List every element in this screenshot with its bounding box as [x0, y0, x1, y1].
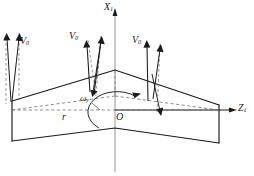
right-v0-vector-shaft [147, 45, 148, 101]
velocity-vector-group-right [143, 40, 163, 116]
mid-v0-vector-arrowhead [83, 40, 90, 48]
radius-label: r [62, 112, 66, 122]
right-v0-vector-arrowhead [143, 40, 150, 48]
hidden-edge-right [115, 96, 219, 110]
x1-axis-label: X1 [104, 2, 113, 13]
velocity-label-left: V0 [20, 36, 29, 47]
left-v0-vector-arrowhead [3, 33, 10, 41]
wing-trailing-edge-bottom [12, 128, 219, 143]
x1-axis-arrowhead [113, 8, 118, 16]
left-v0-vector-shaft [7, 38, 11, 102]
velocity-label-right: V0 [132, 35, 141, 46]
hidden-edge-left [12, 96, 115, 110]
wing-body [12, 70, 219, 143]
velocity-vector-group-mid [83, 36, 105, 97]
figure-canvas: X1 Z1 O r ωy V0 V0 V0 [0, 0, 254, 176]
z1-axis-label: Z1 [238, 103, 247, 114]
hidden-construction-lines [12, 70, 219, 110]
wing-diagram-svg [0, 0, 254, 176]
velocity-label-mid: V0 [69, 31, 78, 42]
angular-velocity-label: ωy [80, 94, 89, 104]
omega-leader-line [92, 103, 100, 110]
wing-leading-edge-top [12, 70, 219, 105]
left-resultant-vector-shaft [12, 38, 19, 101]
z1-axis-arrowhead [229, 107, 237, 112]
mid-resultant-vector-arrowhead [98, 36, 105, 44]
rotation-arc-arrowhead [132, 92, 141, 98]
origin-label: O [116, 112, 123, 122]
mid-induced-vector-shaft [93, 41, 101, 92]
